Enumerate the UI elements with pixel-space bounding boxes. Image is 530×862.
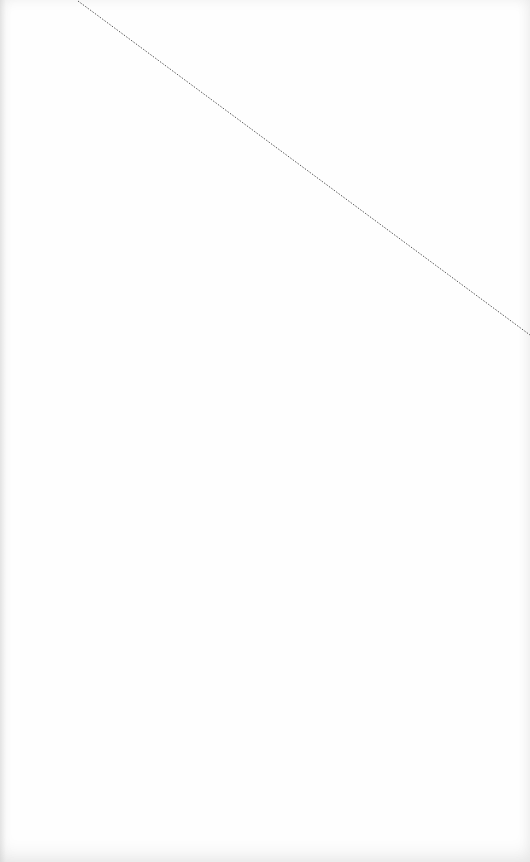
blank-document-page xyxy=(0,0,530,862)
diagonal-dotted-rule xyxy=(0,0,530,862)
dotted-line xyxy=(78,1,530,335)
